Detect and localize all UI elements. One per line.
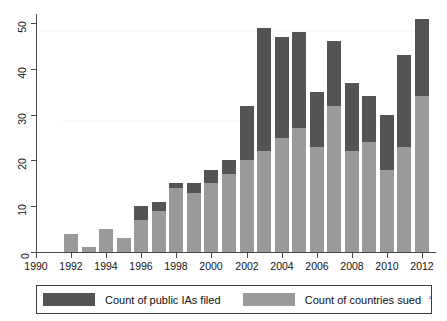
x-tick (211, 253, 212, 258)
x-tick-label: 2010 (367, 260, 407, 273)
legend-item-public-ias: Count of public IAs filed (43, 293, 221, 306)
legend-label-public-ias: Count of public IAs filed (105, 294, 221, 306)
bar-countries-sued (187, 193, 201, 252)
bar-countries-sued (64, 234, 78, 252)
x-tick-label: 2004 (262, 260, 302, 273)
x-tick-label: 2002 (227, 260, 267, 273)
x-tick (176, 253, 177, 258)
legend-swatch-dark-icon (43, 293, 95, 306)
x-tick (317, 253, 318, 258)
x-tick-label: 1996 (121, 260, 161, 273)
bar-countries-sued (380, 170, 394, 252)
x-tick-label: 1994 (86, 260, 126, 273)
x-tick-label: 2012 (402, 260, 442, 273)
x-tick-label: 1992 (51, 260, 91, 273)
y-tick-label: 50 (0, 17, 28, 29)
bar-countries-sued (169, 188, 183, 252)
x-tick-label: 2008 (332, 260, 372, 273)
x-axis-line (36, 252, 436, 253)
legend-label-countries-sued: Count of countries sued (305, 294, 421, 306)
bar-countries-sued (362, 142, 376, 252)
bar-countries-sued (204, 183, 218, 252)
bar-countries-sued (327, 106, 341, 252)
x-tick (282, 253, 283, 258)
bar-countries-sued (240, 160, 254, 252)
bar-countries-sued (275, 138, 289, 252)
bar-countries-sued (310, 147, 324, 252)
x-tick (352, 253, 353, 258)
y-tick-label: 20 (0, 154, 28, 166)
bar-countries-sued (134, 220, 148, 252)
bar-countries-sued (117, 238, 131, 252)
bar-chart: 01020304050 1990199219941996199820002002… (0, 0, 447, 321)
x-tick-label: 1990 (16, 260, 56, 273)
x-tick (71, 253, 72, 258)
bar-countries-sued (397, 147, 411, 252)
bar-countries-sued (415, 96, 429, 252)
x-tick (141, 253, 142, 258)
legend-item-countries-sued: Count of countries sued (243, 293, 421, 306)
bar-countries-sued (292, 128, 306, 252)
x-tick-label: 2000 (191, 260, 231, 273)
bar-countries-sued (257, 151, 271, 252)
plot-area (36, 14, 436, 252)
y-tick-label: 10 (0, 200, 28, 212)
x-tick (36, 253, 37, 258)
bar-countries-sued (99, 229, 113, 252)
bar-countries-sued (152, 211, 166, 252)
chart-legend: Count of public IAs filed Count of count… (36, 285, 432, 314)
y-tick-label: 30 (0, 109, 28, 121)
legend-footnote-marker: ² (429, 295, 431, 301)
x-tick (247, 253, 248, 258)
x-tick (422, 253, 423, 258)
legend-swatch-light-icon (243, 293, 295, 306)
y-tick-label: 0 (0, 246, 28, 258)
x-tick (387, 253, 388, 258)
y-tick-label: 40 (0, 63, 28, 75)
bar-countries-sued (82, 247, 96, 252)
bar-countries-sued (345, 151, 359, 252)
x-tick (106, 253, 107, 258)
x-tick-label: 2006 (297, 260, 337, 273)
x-tick-label: 1998 (156, 260, 196, 273)
bar-countries-sued (222, 174, 236, 252)
